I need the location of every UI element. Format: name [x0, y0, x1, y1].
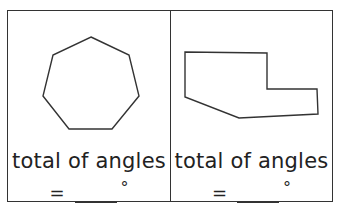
angle-total-label: total of angles — [8, 149, 170, 173]
answer-line: =° — [8, 177, 170, 204]
heptagon-shape — [8, 11, 171, 151]
degree-symbol: ° — [283, 177, 291, 199]
worksheet-grid: total of angles =° total of angles =° — [7, 10, 333, 202]
panel-heptagon: total of angles =° — [8, 11, 170, 201]
answer-blank[interactable] — [237, 186, 279, 203]
panel-irregular-hexagon: total of angles =° — [170, 11, 332, 201]
equals-sign: = — [49, 182, 64, 204]
angle-total-label: total of angles — [171, 149, 332, 173]
equals-sign: = — [212, 182, 227, 204]
answer-line: =° — [171, 177, 332, 204]
irregular-hexagon-shape — [171, 11, 334, 151]
answer-blank[interactable] — [75, 186, 117, 203]
degree-symbol: ° — [121, 177, 129, 199]
